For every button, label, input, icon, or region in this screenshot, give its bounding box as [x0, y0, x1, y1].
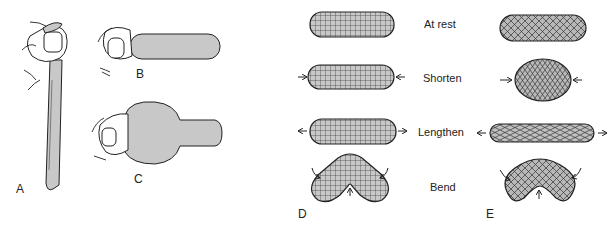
panel-b-balloon [98, 27, 220, 76]
row-label-lengthen: Lengthen [418, 126, 464, 138]
panel-label-c: C [134, 172, 143, 186]
column-d-shapes [298, 12, 407, 202]
column-e-shapes [477, 15, 607, 201]
panel-label-e: E [486, 207, 494, 221]
panel-a-balloon [22, 22, 67, 190]
panel-c-balloon [92, 102, 222, 164]
panel-label-d: D [298, 207, 307, 221]
panel-label-b: B [136, 67, 144, 81]
row-label-bend: Bend [430, 181, 456, 193]
panel-label-a: A [16, 182, 24, 196]
row-label-at-rest: At rest [424, 18, 456, 30]
diagram-canvas [0, 0, 614, 229]
row-label-shorten: Shorten [423, 72, 462, 84]
